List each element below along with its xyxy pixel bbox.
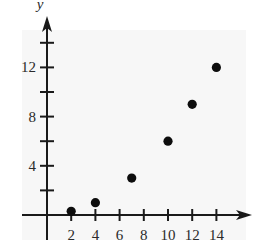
x-tick-label: 14 <box>209 227 225 243</box>
x-tick-label: 4 <box>92 227 100 243</box>
x-tick-label: 6 <box>116 227 124 243</box>
data-point <box>212 63 221 72</box>
y-tick-label: 12 <box>21 59 36 75</box>
plot-background <box>22 30 246 240</box>
data-point <box>188 100 197 109</box>
y-axis-label: y <box>35 0 44 12</box>
data-point <box>127 174 136 183</box>
x-tick-label: 2 <box>67 227 75 243</box>
x-tick-label: 10 <box>161 227 176 243</box>
x-tick-label: 8 <box>140 227 148 243</box>
data-point <box>67 207 76 216</box>
data-point <box>91 198 100 207</box>
scatter-chart: 24681012144812 y <box>0 0 257 243</box>
y-tick-label: 8 <box>29 109 37 125</box>
data-point <box>163 137 172 146</box>
y-tick-label: 4 <box>29 158 37 174</box>
x-tick-label: 12 <box>185 227 200 243</box>
